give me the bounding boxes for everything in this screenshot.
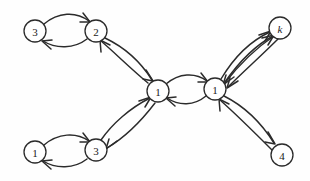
node-label: 1 bbox=[155, 86, 161, 98]
graph-node[interactable]: 4 bbox=[271, 144, 293, 166]
graph-node[interactable]: 1 bbox=[147, 80, 169, 102]
graph-node[interactable]: 2 bbox=[85, 20, 107, 42]
graph-node[interactable]: 3 bbox=[24, 20, 46, 42]
node-label: 3 bbox=[32, 26, 38, 38]
graph-node[interactable]: 3 bbox=[85, 139, 107, 161]
graph-diagram: 32k11134 bbox=[0, 0, 310, 181]
graph-canvas: 32k11134 bbox=[0, 0, 310, 181]
node-label: 4 bbox=[279, 150, 285, 162]
node-label: 1 bbox=[212, 84, 218, 96]
node-label: 1 bbox=[32, 147, 38, 159]
graph-node[interactable]: 1 bbox=[204, 78, 226, 100]
graph-node[interactable]: k bbox=[269, 17, 291, 39]
graph-node[interactable]: 1 bbox=[24, 141, 46, 163]
node-label: 2 bbox=[93, 26, 99, 38]
node-label: 3 bbox=[93, 145, 99, 157]
